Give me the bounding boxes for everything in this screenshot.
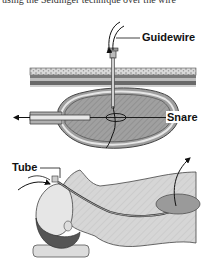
mouth-tube — [52, 176, 58, 182]
patient — [18, 158, 200, 257]
label-guidewire: Guidewire — [142, 31, 195, 43]
pulled-tube — [30, 115, 90, 120]
insert-arrow-lower — [18, 182, 50, 190]
body-stomach — [156, 194, 200, 214]
insert-arrow-upper — [28, 176, 50, 180]
label-snare: Snare — [166, 111, 199, 123]
label-tube: Tube — [12, 161, 37, 173]
ear — [64, 221, 72, 231]
